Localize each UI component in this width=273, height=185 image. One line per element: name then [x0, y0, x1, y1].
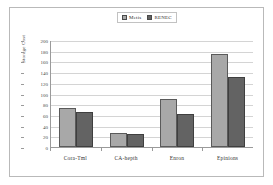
x-axis-category-label: Epinions	[202, 155, 253, 161]
bar-group-ca-hepth	[102, 41, 153, 147]
y-axis-tick-label: 120	[24, 82, 48, 87]
y-axis-tick-label: 80	[24, 103, 48, 108]
legend-swatch-icon	[147, 15, 152, 20]
x-axis-category-labels: Cora-TmlCA-hepthEnronEpinions	[50, 155, 253, 161]
bar-metis-cora-tml	[59, 108, 76, 147]
x-axis-category-label: Enron	[152, 155, 203, 161]
y-axis-tick-mark	[21, 84, 24, 85]
bar-group-cora-tml	[51, 41, 102, 147]
bar-metis-ca-hepth	[110, 133, 127, 147]
bar-metis-enron	[160, 99, 177, 147]
chart-figure: MetisRENEC Storage Cost 2001801601401201…	[0, 0, 273, 185]
y-axis-tick-label: 100	[24, 93, 48, 98]
x-axis-tick-mark	[152, 148, 153, 151]
x-axis-tick-slot	[202, 148, 253, 152]
y-axis-tick-label: 160	[24, 60, 48, 65]
x-axis-tick-slot	[101, 148, 152, 152]
bar-renec-enron	[177, 114, 194, 147]
y-axis-tick-mark	[21, 95, 24, 96]
y-axis-tick-label: 0	[24, 146, 48, 151]
y-axis-tick-mark	[21, 52, 24, 53]
y-axis-tick-label: 60	[24, 114, 48, 119]
x-axis-tick-mark	[202, 148, 203, 151]
y-axis-tick-label: 140	[24, 71, 48, 76]
bar-renec-epinions	[228, 77, 245, 147]
bar-series-container	[51, 41, 253, 147]
x-axis-tick-slot	[50, 148, 101, 152]
x-axis-category-label: Cora-Tml	[50, 155, 101, 161]
legend-label: RENEC	[154, 15, 171, 21]
y-axis-tick-mark	[21, 41, 24, 42]
chart-legend: MetisRENEC	[117, 12, 177, 23]
y-axis-tick-mark	[21, 127, 24, 128]
x-axis-tick-mark	[101, 148, 102, 151]
legend-entry-renec: RENEC	[147, 15, 171, 21]
x-axis-tick-slot	[152, 148, 203, 152]
y-axis-tick-label: 20	[24, 135, 48, 140]
plot-area	[50, 41, 253, 148]
y-axis-tick-mark	[21, 116, 24, 117]
y-axis-tick-label: 180	[24, 50, 48, 55]
y-axis-tick-mark	[21, 137, 24, 138]
x-axis-tick-mark	[50, 148, 51, 151]
y-axis-tick-label: 200	[24, 39, 48, 44]
x-axis-tick-marks	[50, 148, 253, 152]
y-axis-tick-label: 40	[24, 125, 48, 130]
y-axis-tick-mark	[21, 62, 24, 63]
bar-group-enron	[152, 41, 203, 147]
y-axis-tick-labels: 200180160140120100806040200	[24, 41, 48, 148]
legend-label: Metis	[129, 15, 141, 21]
y-axis-tick-mark	[21, 105, 24, 106]
bar-renec-ca-hepth	[127, 134, 144, 147]
bar-metis-epinions	[211, 54, 228, 147]
y-axis-tick-mark	[21, 73, 24, 74]
bar-group-epinions	[203, 41, 254, 147]
x-axis-category-label: CA-hepth	[101, 155, 152, 161]
legend-swatch-icon	[122, 15, 127, 20]
legend-entry-metis: Metis	[122, 15, 141, 21]
bar-renec-cora-tml	[76, 112, 93, 147]
y-axis-tick-mark	[21, 148, 24, 149]
